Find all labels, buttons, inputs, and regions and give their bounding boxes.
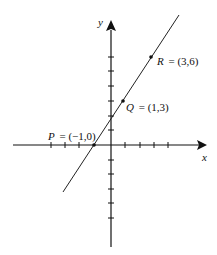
x-axis-label: x [201, 151, 207, 163]
point-q: Q = (1,3) [121, 99, 169, 114]
point-r-coords: = (3,6) [168, 55, 198, 68]
y-axis-label: y [97, 16, 103, 28]
y-axis: y [97, 16, 116, 247]
point-r-marker [149, 55, 153, 59]
y-axis-arrow-icon [106, 20, 116, 31]
point-q-name: Q [126, 101, 134, 113]
coordinate-diagram: x y P = (−1,0) Q [0, 0, 217, 255]
point-r: R = (3,6) [149, 55, 199, 68]
svg-text:P = (−1,0): P = (−1,0) [47, 130, 96, 143]
point-p-coords: = (−1,0) [59, 130, 96, 143]
point-r-name: R [156, 55, 164, 67]
point-q-coords: = (1,3) [139, 101, 169, 114]
svg-text:R = (3,6): R = (3,6) [156, 55, 199, 68]
point-q-marker [121, 99, 125, 103]
point-p: P = (−1,0) [47, 130, 96, 147]
svg-text:Q = (1,3): Q = (1,3) [126, 101, 169, 114]
point-p-name: P [47, 130, 55, 142]
point-p-marker [92, 143, 96, 147]
